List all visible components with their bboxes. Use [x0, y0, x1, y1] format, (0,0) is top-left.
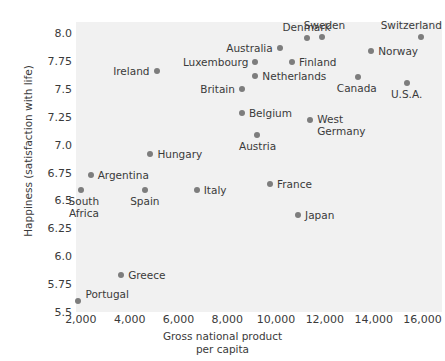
data-point[interactable]: [277, 45, 283, 51]
data-point[interactable]: [319, 34, 325, 40]
data-point-label: Ireland: [113, 66, 149, 78]
x-tick-label: 14,000: [354, 314, 393, 326]
data-point-label: Austria: [239, 141, 276, 153]
y-tick-label: 8.0: [55, 28, 73, 39]
data-point-label: Belgium: [249, 108, 292, 120]
data-point-label: Switzerland: [381, 20, 442, 32]
y-axis-title: Happiness (satisfaction with life): [22, 41, 34, 261]
data-point-label: Hungary: [157, 149, 202, 161]
data-point[interactable]: [295, 212, 301, 218]
y-tick-label: 7.75: [48, 56, 73, 67]
data-point-label: South Africa: [69, 196, 100, 219]
y-tick-label: 6.0: [55, 251, 73, 262]
x-tick-label: 10,000: [257, 314, 296, 326]
y-tick-label: 6.75: [48, 168, 73, 179]
x-tick-label: 4,000: [114, 314, 146, 326]
y-axis-tick-labels: 5.55.756.06.256.56.757.07.257.57.758.0: [28, 22, 72, 312]
data-point-label: Sweden: [304, 20, 346, 32]
data-point-label: U.S.A.: [391, 89, 422, 101]
scatter-plot-figure: 5.55.756.06.256.56.757.07.257.57.758.0 2…: [0, 0, 445, 361]
x-axis-tick-labels: 2,0004,0006,0008,00010,00012,00014,00016…: [0, 314, 445, 330]
x-tick-label: 12,000: [306, 314, 345, 326]
data-point-label: France: [277, 179, 312, 191]
data-point[interactable]: [254, 132, 260, 138]
data-point[interactable]: [267, 181, 273, 187]
data-point[interactable]: [418, 34, 424, 40]
x-tick-label: 6,000: [163, 314, 195, 326]
data-point-label: Argentina: [98, 170, 149, 182]
data-point[interactable]: [154, 68, 160, 74]
data-point-label: Spain: [130, 196, 159, 208]
x-axis-title-line1: Gross national product: [0, 330, 445, 343]
data-point-label: Norway: [378, 46, 418, 58]
y-tick-label: 7.25: [48, 112, 73, 123]
data-point[interactable]: [239, 86, 245, 92]
data-point-label: Canada: [337, 83, 377, 95]
data-point-label: Luxembourg: [183, 57, 248, 69]
data-point-label: Greece: [128, 270, 165, 282]
data-point[interactable]: [252, 73, 258, 79]
data-point-label: Australia: [226, 43, 272, 55]
y-tick-label: 6.25: [48, 223, 73, 234]
y-tick-label: 7.0: [55, 140, 73, 151]
data-point[interactable]: [304, 35, 310, 41]
data-point-label: Netherlands: [262, 71, 326, 83]
data-point-label: West Germany: [317, 114, 365, 137]
data-point[interactable]: [404, 80, 410, 86]
x-axis-title-line2: per capita: [0, 343, 445, 356]
data-point-label: Italy: [204, 185, 227, 197]
data-point-label: Finland: [299, 57, 337, 69]
x-tick-label: 8,000: [212, 314, 244, 326]
y-tick-label: 5.75: [48, 279, 73, 290]
data-point-label: Portugal: [85, 289, 129, 301]
data-point-label: Britain: [200, 84, 235, 96]
data-point[interactable]: [355, 74, 361, 80]
data-point-label: Japan: [305, 210, 334, 222]
x-tick-label: 2,000: [65, 314, 97, 326]
data-point[interactable]: [88, 172, 94, 178]
y-tick-label: 7.5: [55, 84, 73, 95]
x-axis-title: Gross national product per capita: [0, 330, 445, 356]
x-tick-label: 16,000: [403, 314, 442, 326]
